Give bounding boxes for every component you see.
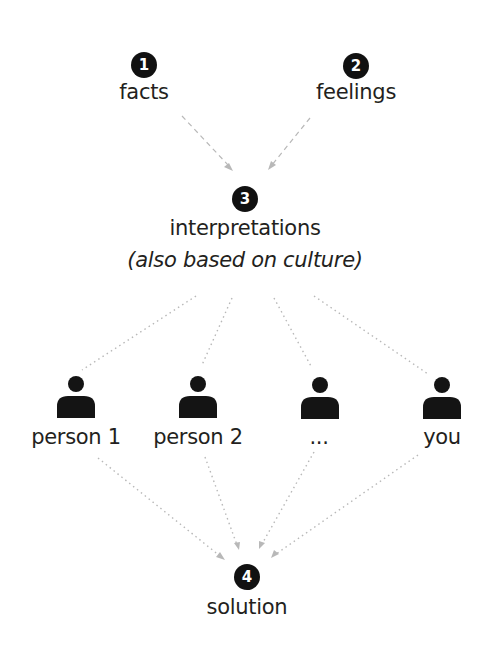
badge-1: 1 — [131, 52, 157, 78]
edge-ellipsis-to-solution — [262, 452, 314, 544]
label-you: you — [423, 427, 461, 448]
edge-you-to-solution — [276, 455, 418, 554]
svg-text:2: 2 — [351, 57, 361, 75]
arrowhead-icon — [259, 541, 265, 549]
person-icon — [301, 377, 339, 419]
label-solution: solution — [207, 597, 288, 618]
label-facts: facts — [119, 82, 168, 103]
edge-interpretations-to-ellipsis — [274, 298, 312, 368]
edge-interpretations-to-person-1 — [82, 296, 196, 370]
arrowhead-icon — [224, 163, 233, 171]
edge-facts-to-interpretations — [182, 116, 229, 166]
label-interpretations: interpretations — [169, 218, 320, 239]
svg-text:1: 1 — [139, 56, 149, 74]
edges-to-solution — [98, 452, 418, 560]
arrowhead-icon — [234, 542, 240, 550]
label-ellipsis: ... — [309, 427, 328, 448]
svg-text:3: 3 — [240, 190, 250, 208]
edges-to-people — [82, 296, 428, 374]
label-feelings: feelings — [316, 82, 396, 103]
badge-3: 3 — [232, 186, 258, 212]
label-interpretations-sub: (also based on culture) — [127, 250, 362, 271]
diagram-canvas: 1 2 3 4 — [0, 0, 491, 669]
person-icon — [179, 376, 217, 418]
badge-4: 4 — [234, 564, 260, 590]
edge-person-2-to-solution — [205, 457, 237, 545]
label-person-1: person 1 — [31, 427, 121, 448]
arrowhead-icon — [271, 550, 279, 558]
edge-interpretations-to-you — [314, 296, 428, 374]
edge-interpretations-to-person-2 — [202, 298, 232, 365]
arrowhead-icon — [216, 552, 225, 560]
edges-to-interpretations — [182, 116, 310, 171]
edge-feelings-to-interpretations — [272, 118, 310, 165]
svg-text:4: 4 — [242, 568, 252, 586]
badge-2: 2 — [343, 53, 369, 79]
label-person-2: person 2 — [153, 427, 243, 448]
person-icon — [57, 376, 95, 418]
person-icon — [423, 377, 461, 419]
edge-person-1-to-solution — [98, 458, 220, 556]
